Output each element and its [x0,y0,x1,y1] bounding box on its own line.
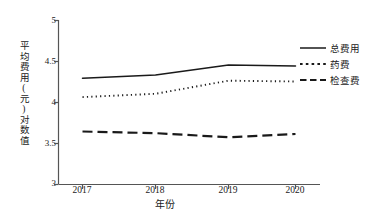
legend-item-total-cost: 总费用 [300,40,386,56]
legend-label-drug-cost: 药费 [330,57,350,71]
legend-swatch-solid-icon [300,43,326,53]
plot-area [0,0,389,216]
legend-swatch-dashed-icon [300,75,326,85]
series-line-drug-cost [83,81,296,97]
series-line-total-cost [83,65,296,78]
y-axis-ticks [54,21,59,185]
legend-swatch-dotted-icon [300,59,326,69]
legend-item-exam-cost: 检查费 [300,72,386,88]
line-chart: 平均费用(元)对数值 5 4.5 4 3.5 3 2017 2018 2019 … [0,0,389,216]
series-line-exam-cost [83,132,296,138]
x-axis-ticks [83,185,296,190]
legend-label-total-cost: 总费用 [330,41,360,55]
legend-item-drug-cost: 药费 [300,56,386,72]
legend-label-exam-cost: 检查费 [330,73,360,87]
chart-legend: 总费用 药费 检查费 [300,40,386,88]
